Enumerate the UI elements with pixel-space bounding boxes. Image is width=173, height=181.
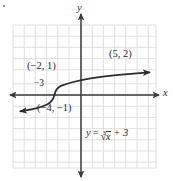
x-intercept-tick-label: −3	[34, 79, 44, 89]
equation-trailing-term: + 3	[111, 128, 128, 139]
radicand: x	[106, 131, 112, 143]
point-label-neg4-neg1: (−4, −1)	[37, 103, 72, 114]
point-label-neg2-1: (−2, 1)	[27, 61, 56, 72]
plot-canvas	[0, 0, 173, 181]
x-axis-label: x	[163, 88, 168, 99]
grid-lines	[13, 25, 156, 168]
point-label-5-2: (5, 2)	[109, 49, 132, 60]
y-axis-label: y	[77, 3, 82, 14]
function-equation-label: y = 3 √ x + 3	[86, 128, 128, 143]
radical-index: 3	[103, 130, 106, 136]
cube-root-graph-figure: (−2, 1) (5, 2) (−4, −1) −3 x y y = 3 √ x…	[0, 0, 173, 181]
cube-root-radical: 3 √ x	[101, 131, 112, 143]
equation-relation: =	[91, 128, 101, 139]
